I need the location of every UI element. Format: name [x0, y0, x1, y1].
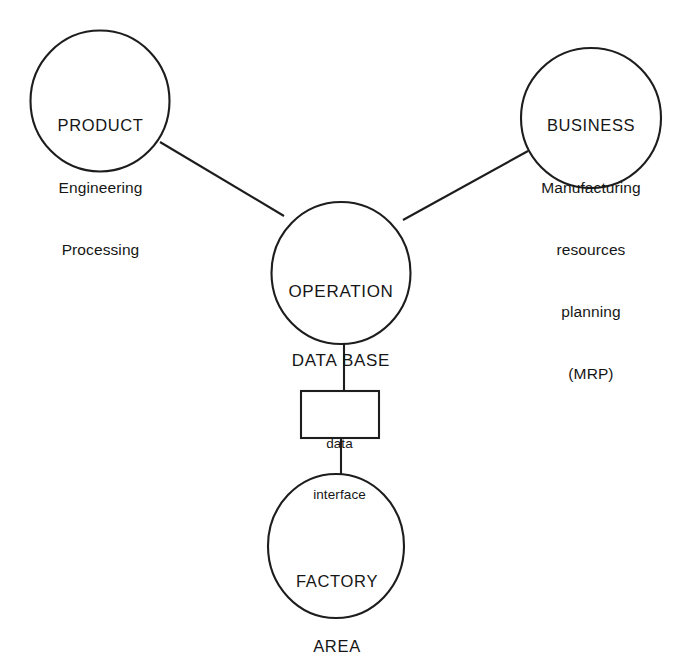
node-label-operation-data-base: OPERATION DATA BASE: [266, 235, 416, 419]
node-label-product-line-2: Engineering: [31, 178, 170, 199]
node-label-product-line-3: Processing: [31, 240, 170, 261]
node-label-product-line-1: PRODUCT: [31, 115, 170, 137]
node-label-business-line-5: (MRP): [513, 364, 669, 385]
node-label-business-line-3: resources: [513, 240, 669, 261]
node-label-factory-line-1: FACTORY: [269, 571, 405, 593]
node-label-factory-area: FACTORY AREA: [269, 527, 405, 656]
node-label-interface-line-1: data: [300, 435, 379, 452]
node-label-product: PRODUCT Engineering Processing: [31, 74, 170, 302]
edge-business-to-operation: [403, 151, 528, 220]
node-label-business: BUSINESS Manufacturing resources plannin…: [513, 74, 669, 426]
node-label-factory-line-2: AREA: [269, 636, 405, 656]
edge-product-to-operation: [160, 142, 284, 216]
node-label-operation-line-1: OPERATION: [266, 281, 416, 304]
node-label-business-line-2: Manufacturing: [513, 178, 669, 199]
node-label-business-line-1: BUSINESS: [513, 115, 669, 137]
node-label-business-line-4: planning: [513, 302, 669, 323]
node-label-interface-line-2: interface: [300, 486, 379, 503]
node-label-operation-line-2: DATA BASE: [266, 350, 416, 373]
node-label-data-interface: data interface: [300, 400, 379, 538]
